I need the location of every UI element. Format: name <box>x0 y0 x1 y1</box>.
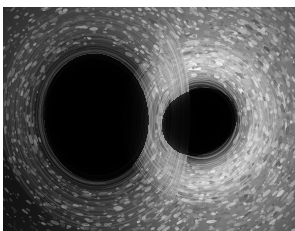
vortex-field-image <box>3 7 295 231</box>
image-stage: Two dark vortex cores in a speckled part… <box>0 0 295 231</box>
image-frame <box>3 7 295 231</box>
